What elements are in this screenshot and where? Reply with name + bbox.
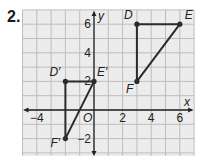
- coordinate-plane: yxO−4246642−2DEFD′E′F′: [0, 0, 209, 163]
- y-tick-label: −2: [77, 132, 91, 146]
- y-tick-label: 4: [84, 46, 91, 60]
- vertex-label: E′: [97, 65, 108, 79]
- vertex-point: [63, 136, 68, 141]
- x-axis-label: x: [183, 95, 191, 109]
- origin-label: O: [83, 111, 92, 125]
- x-tick-label: 2: [119, 111, 126, 125]
- vertex-point: [177, 22, 182, 27]
- y-tick-label: 6: [84, 17, 91, 31]
- x-tick-label: −4: [30, 111, 44, 125]
- vertex-point: [134, 22, 139, 27]
- y-axis-label: y: [97, 9, 105, 23]
- vertex-label: F′: [50, 136, 60, 150]
- vertex-label: D′: [49, 65, 61, 79]
- vertex-point: [91, 79, 96, 84]
- vertex-label: D: [124, 8, 133, 22]
- x-tick-label: 4: [148, 111, 155, 125]
- x-tick-label: 6: [176, 111, 183, 125]
- vertex-point: [134, 79, 139, 84]
- vertex-label: F: [126, 82, 134, 96]
- vertex-label: E: [185, 8, 194, 22]
- vertex-point: [63, 79, 68, 84]
